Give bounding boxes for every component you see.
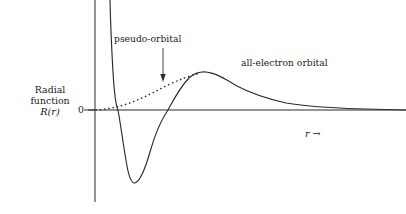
x-axis-symbol: r	[305, 128, 310, 139]
all-electron-orbital-annotation-label: all-electron orbital	[241, 57, 328, 68]
pseudo-orbital-annotation-label: pseudo-orbital	[114, 33, 181, 44]
pseudo-orbital-pointer-arrowhead	[160, 74, 165, 82]
right-arrow-icon: →	[310, 128, 321, 139]
y-axis-title-line-1: Radial	[14, 84, 86, 95]
pseudo-orbital-curve	[96, 73, 200, 110]
y-axis-title: Radial function R(r)	[14, 84, 86, 118]
all-electron-orbital-curve	[110, 0, 406, 183]
y-axis-title-line-2: function	[14, 95, 86, 106]
x-axis-title: r→	[305, 128, 321, 139]
y-axis-title-line-3: R(r)	[14, 106, 86, 118]
